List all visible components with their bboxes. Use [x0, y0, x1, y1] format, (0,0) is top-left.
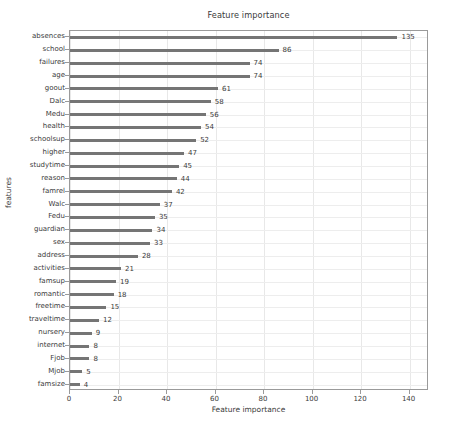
y-tick-label-schoolsup: schoolsup: [30, 135, 69, 143]
x-tick-label: 40: [162, 395, 171, 403]
y-tick-label-sex: sex: [53, 238, 69, 246]
y-tick-label-absences: absences: [32, 32, 69, 40]
bar-value-label: 45: [183, 162, 192, 170]
bar: [70, 280, 116, 283]
vertical-gridline: [119, 31, 120, 389]
vertical-gridline: [216, 31, 217, 389]
y-tick-label-age: age: [52, 71, 69, 79]
y-tick-label-famsup: famsup: [39, 277, 69, 285]
bar: [70, 190, 172, 193]
bar: [70, 229, 152, 232]
y-axis-ticks: absencesschoolfailuresagegooutDalcMeduhe…: [0, 30, 69, 390]
plot-area: 1358674746158565452474544423735343328211…: [69, 30, 428, 390]
vertical-gridline: [313, 31, 314, 389]
bar-value-label: 4: [84, 381, 88, 389]
y-tick-label-failures: failures: [39, 58, 69, 66]
x-tick-mark: [166, 390, 167, 394]
bar-value-label: 34: [156, 226, 165, 234]
horizontal-gridline: [70, 372, 427, 373]
bar: [70, 332, 92, 335]
y-tick-label-school: school: [43, 45, 69, 53]
horizontal-gridline: [70, 269, 427, 270]
x-tick-label: 140: [402, 395, 415, 403]
bar-value-label: 12: [103, 316, 112, 324]
bar: [70, 255, 138, 258]
vertical-gridline: [410, 31, 411, 389]
x-tick-mark: [118, 390, 119, 394]
bar-value-label: 74: [254, 72, 263, 80]
y-tick-label-guardian: guardian: [34, 225, 69, 233]
horizontal-gridline: [70, 359, 427, 360]
chart-title: Feature importance: [69, 10, 428, 20]
x-tick-label: 80: [259, 395, 268, 403]
bar: [70, 306, 106, 309]
y-tick-label-health: health: [43, 122, 69, 130]
bar: [70, 126, 201, 129]
bar-value-label: 21: [125, 265, 134, 273]
bar-value-label: 52: [200, 136, 209, 144]
bar-value-label: 9: [96, 329, 100, 337]
x-tick-mark: [312, 390, 313, 394]
y-tick-label-Dalc: Dalc: [50, 97, 69, 105]
y-tick-label-romantic: romantic: [34, 290, 69, 298]
x-tick-mark: [215, 390, 216, 394]
horizontal-gridline: [70, 333, 427, 334]
x-tick-label: 0: [67, 395, 71, 403]
bar-value-label: 35: [159, 213, 168, 221]
y-tick-label-Walc: Walc: [48, 200, 69, 208]
bar-value-label: 42: [176, 188, 185, 196]
bar: [70, 113, 206, 116]
y-tick-label-Fedu: Fedu: [48, 212, 69, 220]
bar: [70, 345, 89, 348]
y-tick-label-Mjob: Mjob: [48, 367, 69, 375]
bar: [70, 370, 82, 373]
y-tick-label-freetime: freetime: [35, 302, 69, 310]
bar: [70, 216, 155, 219]
bar-value-label: 58: [215, 98, 224, 106]
bar-value-label: 5: [86, 368, 90, 376]
vertical-gridline: [264, 31, 265, 389]
bar: [70, 152, 184, 155]
bar-value-label: 86: [283, 46, 292, 54]
bar: [70, 383, 80, 386]
bar-value-label: 44: [181, 175, 190, 183]
bar-value-label: 8: [93, 342, 97, 350]
horizontal-gridline: [70, 385, 427, 386]
bar-value-label: 19: [120, 278, 129, 286]
vertical-gridline: [167, 31, 168, 389]
y-tick-label-goout: goout: [45, 84, 69, 92]
y-tick-label-famrel: famrel: [42, 187, 69, 195]
x-tick-label: 60: [210, 395, 219, 403]
bar-value-label: 15: [110, 303, 119, 311]
bar: [70, 319, 99, 322]
bar: [70, 267, 121, 270]
bar: [70, 75, 250, 78]
bar: [70, 242, 150, 245]
vertical-gridline: [70, 31, 71, 389]
bar-value-label: 61: [222, 85, 231, 93]
bar: [70, 293, 114, 296]
bar: [70, 100, 211, 103]
bar: [70, 203, 160, 206]
x-tick-mark: [409, 390, 410, 394]
bar: [70, 62, 250, 65]
y-tick-label-Fjob: Fjob: [50, 354, 69, 362]
x-tick-mark: [263, 390, 264, 394]
y-tick-label-activities: activities: [33, 264, 69, 272]
bar: [70, 165, 179, 168]
y-tick-label-traveltime: traveltime: [29, 315, 69, 323]
bar: [70, 177, 177, 180]
y-tick-label-address: address: [37, 251, 69, 259]
x-tick-label: 20: [113, 395, 122, 403]
bar-value-label: 54: [205, 123, 214, 131]
x-tick-label: 120: [353, 395, 366, 403]
x-tick-mark: [69, 390, 70, 394]
bar: [70, 357, 89, 360]
horizontal-gridline: [70, 320, 427, 321]
bar-value-label: 37: [164, 201, 173, 209]
y-tick-label-studytime: studytime: [30, 161, 69, 169]
bar-value-label: 28: [142, 252, 151, 260]
x-axis-label: Feature importance: [69, 405, 428, 414]
y-tick-label-higher: higher: [43, 148, 69, 156]
feature-importance-chart: Feature importance features absencesscho…: [0, 0, 452, 434]
